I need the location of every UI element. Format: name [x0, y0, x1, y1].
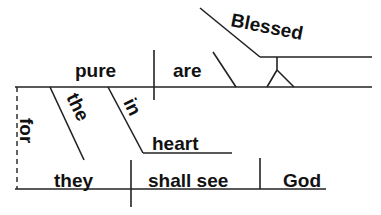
- word-for: for: [16, 118, 37, 144]
- word-blessed: Blessed: [229, 9, 305, 44]
- word-they: they: [54, 170, 94, 191]
- pedestal-fork-right: [277, 70, 294, 87]
- word-god: God: [283, 170, 321, 191]
- pedestal-fork-left: [267, 70, 277, 87]
- sentence-diagram: Blessed pure are the in heart for they s…: [0, 0, 381, 215]
- word-the: the: [62, 90, 93, 125]
- word-heart: heart: [152, 133, 199, 154]
- word-shall-see: shall see: [148, 170, 228, 191]
- complement-slant-line: [213, 52, 236, 87]
- word-pure: pure: [75, 60, 116, 81]
- word-are: are: [173, 60, 202, 81]
